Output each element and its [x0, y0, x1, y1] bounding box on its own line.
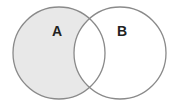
venn-diagram: A B [0, 0, 176, 108]
set-a-label: A [52, 23, 62, 39]
set-b-label: B [117, 23, 127, 39]
